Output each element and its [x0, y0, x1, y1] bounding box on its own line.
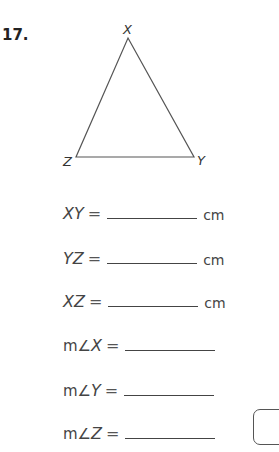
answer-blank-angle-x[interactable]	[125, 349, 215, 351]
answer-blank-xz[interactable]	[108, 305, 198, 307]
equals-sign: =	[106, 424, 119, 443]
measurement-angle-y: m∠ Y =	[63, 380, 214, 400]
answer-blank-angle-z[interactable]	[125, 437, 215, 439]
answer-box	[253, 409, 279, 445]
unit-label: cm	[204, 295, 225, 311]
angle-prefix: m∠	[63, 337, 91, 355]
measurement-label: XZ	[63, 292, 85, 311]
answer-blank-xy[interactable]	[107, 217, 197, 219]
equals-sign: =	[88, 249, 101, 268]
angle-prefix: m∠	[63, 425, 91, 443]
vertex-label-y: Y	[197, 153, 206, 168]
angle-prefix: m∠	[63, 382, 91, 400]
measurement-label: Z	[91, 424, 102, 443]
equals-sign: =	[105, 381, 118, 400]
unit-label: cm	[203, 207, 224, 223]
answer-blank-yz[interactable]	[107, 262, 197, 264]
measurement-angle-z: m∠ Z =	[63, 423, 215, 443]
measurement-yz: YZ = cm	[63, 248, 224, 268]
measurement-xy: XY = cm	[63, 203, 224, 223]
vertex-label-z: Z	[62, 154, 73, 169]
triangle-xyz	[76, 38, 194, 157]
measurement-angle-x: m∠ X =	[63, 335, 215, 355]
vertex-label-x: X	[122, 22, 133, 37]
measurement-label: X	[91, 336, 102, 355]
answer-blank-angle-y[interactable]	[124, 394, 214, 396]
equals-sign: =	[89, 292, 102, 311]
equals-sign: =	[106, 336, 119, 355]
unit-label: cm	[203, 252, 224, 268]
measurement-label: XY	[63, 204, 84, 223]
triangle-diagram: X Y Z	[0, 0, 279, 200]
measurement-label: YZ	[63, 249, 84, 268]
measurement-label: Y	[91, 381, 101, 400]
equals-sign: =	[88, 204, 101, 223]
measurement-xz: XZ = cm	[63, 291, 226, 311]
